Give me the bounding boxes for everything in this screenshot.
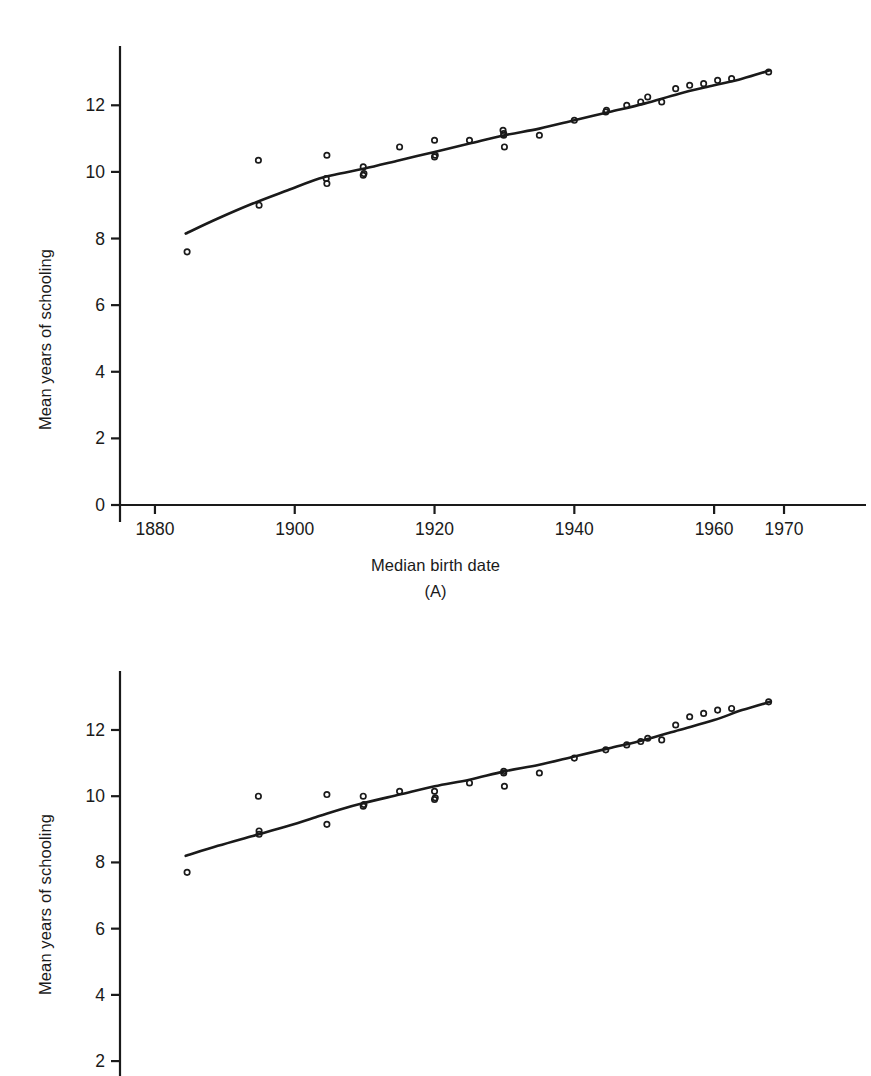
data-point (432, 797, 437, 802)
data-point (572, 755, 577, 760)
y-axis-tick-label: 8 (95, 852, 105, 872)
data-point (638, 99, 643, 104)
data-point (467, 138, 472, 143)
data-point (324, 792, 329, 797)
data-point (432, 789, 437, 794)
data-point (645, 94, 650, 99)
y-axis-tick-label: 2 (95, 428, 105, 448)
data-point (659, 737, 664, 742)
y-axis-title-b: Mean years of schooling (36, 814, 55, 995)
data-point (502, 144, 507, 149)
x-axis-tick-label: 1940 (555, 519, 594, 539)
chart-panel-b: 24681012 Mean years of schooling (0, 625, 871, 1076)
x-axis-title-a: Median birth date (0, 556, 871, 575)
y-axis-tick-label: 10 (86, 162, 106, 182)
data-point (687, 83, 692, 88)
y-axis-tick-label: 12 (86, 95, 105, 115)
data-point (467, 780, 472, 785)
fitted-curve (186, 702, 770, 856)
y-axis-tick-label: 4 (95, 985, 105, 1005)
data-point (502, 784, 507, 789)
data-point (701, 81, 706, 86)
data-point (324, 181, 329, 186)
data-point (432, 138, 437, 143)
data-point (687, 714, 692, 719)
data-point (184, 249, 189, 254)
y-axis-tick-label: 12 (86, 720, 105, 740)
data-point (256, 158, 261, 163)
data-point (604, 108, 609, 113)
data-point (501, 770, 506, 775)
data-point (659, 99, 664, 104)
y-axis-tick-label: 2 (95, 1051, 105, 1071)
y-axis-tick-label: 4 (95, 362, 105, 382)
figure-page: 024681012188019001920194019601970 Mean y… (0, 0, 871, 1076)
data-point (256, 794, 261, 799)
y-axis-tick-label: 0 (95, 495, 105, 515)
data-point (361, 803, 366, 808)
data-point (361, 173, 366, 178)
fitted-curve (186, 70, 770, 233)
x-axis-tick-label: 1880 (135, 519, 174, 539)
data-point (715, 78, 720, 83)
data-point (324, 153, 329, 158)
data-point (397, 144, 402, 149)
data-point (432, 154, 437, 159)
y-axis-tick-label: 8 (95, 229, 105, 249)
chart-panel-a: 024681012188019001920194019601970 Mean y… (0, 0, 871, 615)
data-point (715, 707, 720, 712)
data-point (184, 870, 189, 875)
plot-b-canvas: 24681012 (0, 625, 871, 1076)
data-point (537, 133, 542, 138)
y-axis-tick-label: 10 (86, 786, 106, 806)
x-axis-tick-label: 1900 (275, 519, 314, 539)
data-point (361, 164, 366, 169)
data-point (324, 822, 329, 827)
x-axis-tick-label: 1960 (695, 519, 734, 539)
y-axis-tick-label: 6 (95, 919, 105, 939)
x-axis-tick-label: 1920 (415, 519, 454, 539)
data-point (624, 103, 629, 108)
data-point (701, 711, 706, 716)
data-point (729, 76, 734, 81)
y-axis-tick-label: 6 (95, 295, 105, 315)
plot-a-canvas: 024681012188019001920194019601970 (0, 0, 871, 560)
panel-caption-a: (A) (0, 582, 871, 601)
data-point (673, 86, 678, 91)
data-point (537, 770, 542, 775)
y-axis-title-a: Mean years of schooling (36, 249, 55, 430)
x-axis-tick-label: 1970 (765, 519, 804, 539)
data-point (256, 203, 261, 208)
data-point (397, 789, 402, 794)
data-point (729, 706, 734, 711)
data-point (361, 794, 366, 799)
data-point (673, 722, 678, 727)
